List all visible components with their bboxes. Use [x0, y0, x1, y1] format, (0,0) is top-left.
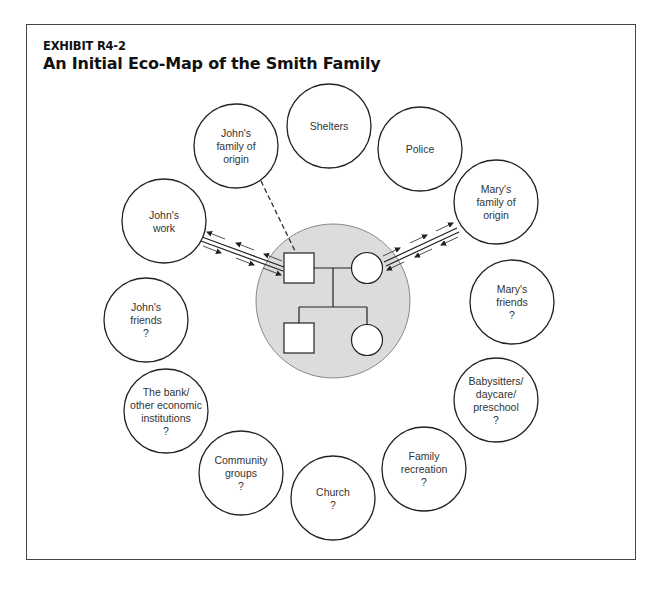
system-label-line: origin — [483, 209, 509, 221]
system-label-line: ? — [421, 476, 427, 488]
system-label-line: daycare/ — [476, 388, 516, 400]
system-label-line: recreation — [401, 463, 448, 475]
system-label-line: origin — [223, 153, 249, 165]
system-node-family-recreation: Familyrecreation? — [382, 427, 466, 511]
system-label-line: Shelters — [310, 120, 349, 132]
system-node-bank: The bank/other economicinstitutions? — [124, 369, 208, 453]
system-label-line: Police — [406, 143, 435, 155]
system-node-police: Police — [378, 107, 462, 191]
son-square-symbol — [284, 323, 314, 353]
system-label-line: friends — [496, 296, 528, 308]
system-node-church: Church? — [291, 456, 375, 540]
system-node-marys-family-of-origin: Mary'sfamily oforigin — [454, 160, 538, 244]
mary-circle-symbol — [352, 253, 383, 284]
system-label-line: The bank/ — [143, 386, 190, 398]
system-label-line: John's — [149, 209, 179, 221]
system-label-line: Mary's — [481, 183, 512, 195]
system-label-line: ? — [509, 309, 515, 321]
system-label-line: ? — [238, 480, 244, 492]
system-label-line: family of — [476, 196, 515, 208]
daughter-circle-symbol — [352, 325, 383, 356]
system-label-line: family of — [216, 140, 255, 152]
system-node-babysitters: Babysitters/daycare/preschool? — [454, 358, 538, 442]
system-node-johns-family-of-origin: John'sfamily oforigin — [194, 104, 278, 188]
john-square-symbol — [284, 253, 314, 283]
system-node-johns-friends: John'sfriends? — [104, 278, 188, 362]
eco-map-diagram: SheltersPoliceJohn'sfamily oforiginJohn'… — [0, 0, 663, 589]
system-label-line: friends — [130, 314, 162, 326]
system-label-line: Babysitters/ — [469, 375, 524, 387]
system-node-marys-friends: Mary'sfriends? — [470, 260, 554, 344]
system-label-line: Family — [409, 450, 441, 462]
system-label-line: ? — [143, 327, 149, 339]
system-label-line: ? — [163, 425, 169, 437]
connection-johns-family-of-origin — [261, 181, 296, 253]
system-label-line: institutions — [141, 412, 191, 424]
system-node-shelters: Shelters — [287, 84, 371, 168]
system-label-line: other economic — [130, 399, 202, 411]
system-node-johns-work: John'swork — [122, 179, 206, 263]
system-label-line: preschool — [473, 401, 519, 413]
system-label-line: John's — [221, 127, 251, 139]
system-label-line: work — [152, 222, 176, 234]
system-label-line: John's — [131, 301, 161, 313]
system-label-line: ? — [493, 414, 499, 426]
system-label-line: groups — [225, 467, 257, 479]
system-label-line: Mary's — [497, 283, 528, 295]
system-label-line: ? — [330, 499, 336, 511]
system-node-community-groups: Communitygroups? — [199, 431, 283, 515]
system-label-line: Church — [316, 486, 350, 498]
system-label-line: Community — [214, 454, 268, 466]
